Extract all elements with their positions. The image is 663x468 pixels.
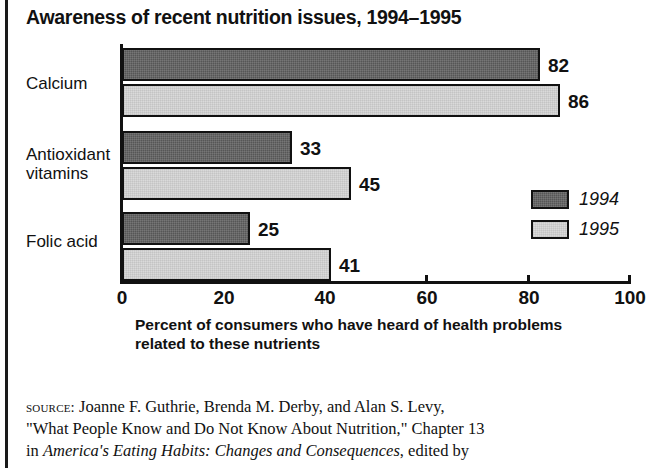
chart-page: Awareness of recent nutrition issues, 19… (0, 0, 663, 468)
bar-calcium-1995 (122, 84, 560, 117)
source-line2: "What People Know and Do Not Know About … (26, 419, 484, 438)
source-label: source: (26, 399, 75, 415)
legend-swatch-1994-icon (531, 190, 569, 209)
bar-value-antioxidant-1995: 45 (359, 174, 380, 196)
source-note: source: Joanne F. Guthrie, Brenda M. Der… (26, 396, 656, 462)
source-line3-title: America's Eating Habits: Changes and Con… (43, 441, 400, 460)
x-tick-label-20: 20 (194, 287, 254, 309)
source-line3-prefix: in (26, 441, 43, 460)
bar-value-calcium-1995: 86 (568, 91, 589, 113)
x-tick-label-40: 40 (295, 287, 355, 309)
bar-value-antioxidant-1994: 33 (300, 138, 321, 160)
legend-item-1994: 1994 (531, 186, 619, 212)
bar-calcium-1994 (122, 48, 540, 81)
x-axis-caption-line1: Percent of consumers who have heard of h… (135, 315, 635, 334)
bar-folic-1994 (122, 212, 250, 245)
bar-antioxidant-1995 (122, 167, 351, 200)
legend-item-1995: 1995 (531, 216, 619, 242)
bar-folic-1995 (122, 248, 331, 281)
x-tick-80 (527, 275, 530, 282)
x-tick-label-60: 60 (397, 287, 457, 309)
legend-label-1994: 1994 (579, 189, 619, 210)
category-label-antioxidant-vitamins: Antioxidant vitamins (26, 145, 110, 183)
x-tick-60 (425, 275, 428, 282)
chart-legend: 1994 1995 (531, 186, 619, 246)
category-label-folic-acid: Folic acid (26, 232, 98, 251)
bar-value-folic-1995: 41 (339, 255, 360, 277)
source-line1: Joanne F. Guthrie, Brenda M. Derby, and … (75, 397, 445, 416)
x-tick-label-100: 100 (600, 287, 660, 309)
x-axis-line (120, 281, 631, 284)
x-axis-caption-line2: related to these nutrients (135, 334, 635, 353)
bar-value-calcium-1994: 82 (548, 55, 569, 77)
x-axis-caption: Percent of consumers who have heard of h… (135, 315, 635, 353)
bar-value-folic-1994: 25 (258, 219, 279, 241)
legend-swatch-1995-icon (531, 220, 569, 239)
x-tick-100 (628, 275, 631, 282)
bar-antioxidant-1994 (122, 131, 292, 164)
source-line3-suffix: , edited by (400, 441, 469, 460)
legend-label-1995: 1995 (579, 219, 619, 240)
x-tick-label-0: 0 (92, 287, 152, 309)
category-label-calcium: Calcium (26, 74, 87, 93)
x-tick-label-80: 80 (499, 287, 559, 309)
